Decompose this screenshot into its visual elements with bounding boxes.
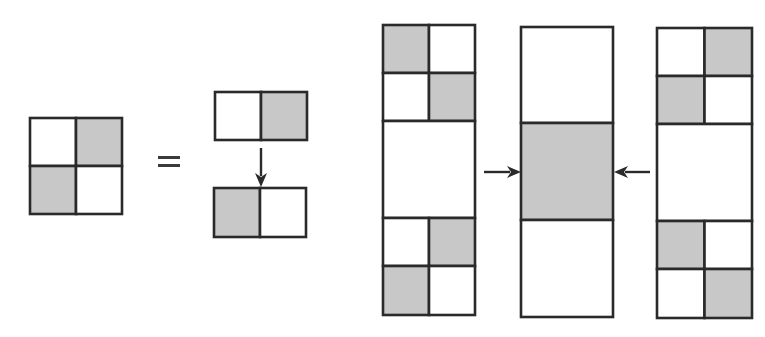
bottom-pair-blank-cell: [260, 188, 306, 237]
left-column: [383, 25, 475, 315]
left-column-shaded-cell: [383, 25, 429, 73]
checkerboard-2x2-blank-cell: [30, 118, 76, 166]
right-arrow-icon: [484, 166, 521, 178]
equals-bar-top: [158, 156, 180, 159]
right-column-blank-cell: [657, 124, 752, 221]
checkerboard-2x2-shaded-cell: [76, 118, 122, 166]
top-pair-shaded-cell: [261, 92, 307, 140]
middle-column: [521, 27, 613, 317]
checkerboard-2x2-shaded-cell: [30, 166, 76, 214]
middle-column-blank-cell: [521, 220, 613, 317]
left-column-shaded-cell: [429, 218, 475, 266]
right-column-blank-cell: [657, 269, 705, 318]
left-column-shaded-cell: [383, 266, 429, 315]
left-column-blank-cell: [383, 218, 429, 266]
top-pair-blank-cell: [215, 92, 261, 140]
equals-sign: [158, 156, 180, 167]
bottom-pair: [214, 188, 306, 237]
right-column-shaded-cell: [705, 269, 753, 318]
right-column-shaded-cell: [657, 221, 705, 269]
right-column-shaded-cell: [657, 76, 705, 124]
right-column-blank-cell: [657, 28, 705, 76]
middle-column-blank-cell: [521, 27, 613, 123]
top-pair: [215, 92, 307, 140]
right-column: [657, 28, 752, 318]
left-column-shaded-cell: [429, 73, 475, 121]
left-column-blank-cell: [383, 73, 429, 121]
equals-bar-bottom: [158, 164, 180, 167]
bottom-pair-shaded-cell: [214, 188, 260, 237]
diagram-canvas: [0, 0, 765, 337]
checkerboard-2x2: [30, 118, 122, 214]
down-arrow-icon: [255, 148, 267, 187]
left-column-blank-cell: [429, 266, 475, 315]
checkerboard-2x2-blank-cell: [76, 166, 122, 214]
left-column-blank-cell: [429, 25, 475, 73]
left-arrow-icon: [614, 166, 650, 178]
right-column-blank-cell: [705, 76, 753, 124]
middle-column-shaded-cell: [521, 123, 613, 220]
left-column-blank-cell: [383, 121, 475, 218]
right-column-blank-cell: [705, 221, 753, 269]
right-column-shaded-cell: [705, 28, 753, 76]
